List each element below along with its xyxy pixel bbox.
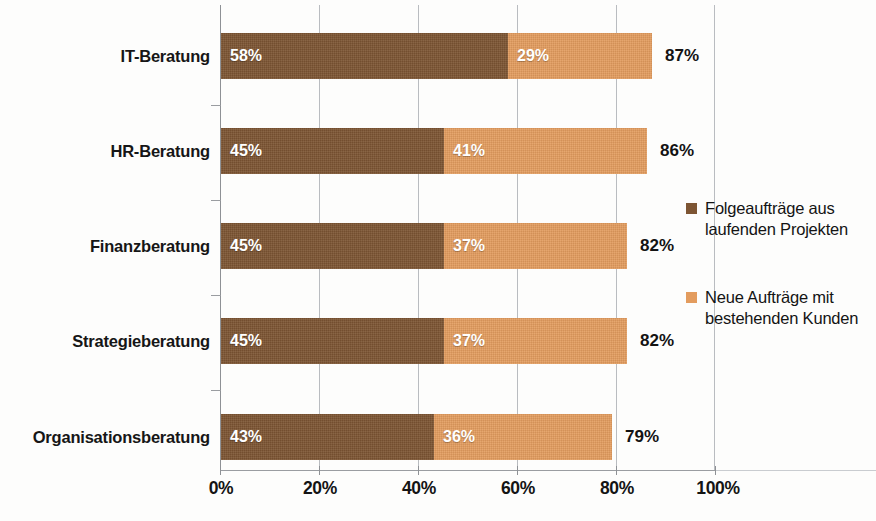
legend-label-line2: laufenden Projekten (705, 220, 848, 238)
segment-value-label: 45% (230, 318, 262, 364)
category-label: Organisationsberatung (0, 414, 210, 460)
bar-row: Organisationsberatung 43% 36% 79% (0, 414, 876, 460)
segment-value-label: 43% (230, 414, 262, 460)
legend-swatch-icon (686, 203, 697, 214)
bar-segment-series-a: 45% (221, 223, 444, 269)
segment-value-label: 37% (453, 223, 485, 269)
bar-segment-series-b: 36% (434, 414, 612, 460)
legend-label-line1: Folgeaufträge aus (705, 199, 835, 217)
legend-label-line2: bestehenden Kunden (705, 309, 858, 327)
bar-segment-series-a: 43% (221, 414, 434, 460)
axis-tail (716, 470, 876, 471)
category-axis-line (220, 470, 716, 471)
legend-label: Folgeaufträge auslaufenden Projekten (705, 198, 876, 240)
legend-item-neue-auftraege: Neue Aufträge mitbestehenden Kunden (686, 287, 876, 329)
xtick-mark-60 (517, 466, 518, 475)
bar-row: HR-Beratung 45% 41% 86% (0, 128, 876, 174)
segment-value-label: 36% (443, 414, 475, 460)
minor-tick-1 (211, 105, 221, 106)
category-label: IT-Beratung (0, 33, 210, 79)
bar-segment-series-a: 58% (221, 33, 508, 79)
xtick-mark-0 (220, 466, 221, 475)
legend-label-line1: Neue Aufträge mit (705, 288, 834, 306)
legend-item-folgeauftraege: Folgeaufträge auslaufenden Projekten (686, 198, 876, 240)
stacked-bar-chart: IT-Beratung 58% 29% 87% HR-Beratung 45% … (0, 0, 876, 521)
minor-tick-4 (211, 390, 221, 391)
bar-total-label: 82% (640, 318, 674, 364)
xtick-mark-100 (715, 466, 716, 475)
segment-value-label: 58% (230, 33, 262, 79)
bar-segment-series-b: 29% (508, 33, 652, 79)
xtick-label-20: 20% (275, 478, 365, 499)
xtick-label-60: 60% (473, 478, 563, 499)
segment-value-label: 29% (517, 33, 549, 79)
bar-total-label: 87% (665, 33, 699, 79)
segment-value-label: 37% (453, 318, 485, 364)
xtick-mark-80 (616, 466, 617, 475)
legend: Folgeaufträge auslaufenden Projekten Neu… (686, 198, 876, 376)
bar-row: IT-Beratung 58% 29% 87% (0, 33, 876, 79)
xtick-mark-40 (418, 466, 419, 475)
bar-total-label: 82% (640, 223, 674, 269)
xtick-label-100: 100% (673, 478, 763, 499)
minor-tick-2 (211, 200, 221, 201)
segment-value-label: 45% (230, 223, 262, 269)
bar-segment-series-b: 37% (444, 318, 627, 364)
bar-segment-series-b: 41% (444, 128, 647, 174)
legend-label: Neue Aufträge mitbestehenden Kunden (705, 287, 876, 329)
minor-tick-3 (211, 295, 221, 296)
category-label: Strategieberatung (0, 318, 210, 364)
segment-value-label: 41% (453, 128, 485, 174)
xtick-label-40: 40% (374, 478, 464, 499)
legend-swatch-icon (686, 292, 697, 303)
bar-segment-series-b: 37% (444, 223, 627, 269)
xtick-mark-20 (319, 466, 320, 475)
bar-total-label: 86% (660, 128, 694, 174)
xtick-label-0: 0% (176, 478, 266, 499)
bar-segment-series-a: 45% (221, 128, 444, 174)
bar-segment-series-a: 45% (221, 318, 444, 364)
segment-value-label: 45% (230, 128, 262, 174)
category-label: HR-Beratung (0, 128, 210, 174)
bar-total-label: 79% (625, 414, 659, 460)
category-label: Finanzberatung (0, 223, 210, 269)
xtick-label-80: 80% (572, 478, 662, 499)
